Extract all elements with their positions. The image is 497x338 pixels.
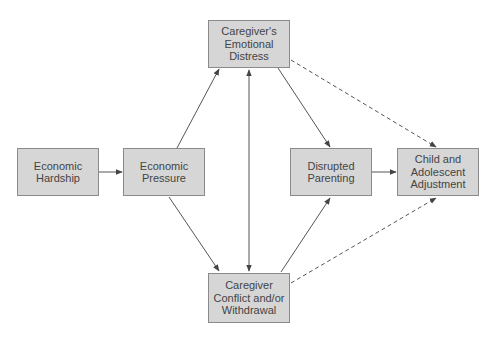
node-child-adjustment: Child and Adolescent Adjustment [397, 148, 479, 196]
node-economic-hardship: Economic Hardship [17, 148, 99, 196]
arrow-pressure-to-distress [177, 69, 219, 148]
node-emotional-distress: Caregiver's Emotional Distress [208, 20, 290, 68]
arrow-conflict-to-parenting [281, 198, 330, 272]
node-conflict-withdrawal: Caregiver Conflict and/or Withdrawal [208, 273, 290, 323]
node-disrupted-parenting: Disrupted Parenting [290, 148, 372, 196]
node-label: Disrupted Parenting [307, 160, 354, 185]
arrow-conflict-to-adjustment-dashed [291, 198, 436, 283]
node-economic-pressure: Economic Pressure [123, 148, 205, 196]
arrow-distress-to-adjustment-dashed [291, 60, 436, 147]
node-label: Economic Hardship [34, 160, 82, 185]
node-label: Economic Pressure [140, 160, 188, 185]
arrow-pressure-to-conflict [169, 197, 219, 271]
node-label: Caregiver's Emotional Distress [221, 25, 276, 63]
arrow-distress-to-parenting [278, 68, 330, 147]
node-label: Child and Adolescent Adjustment [410, 153, 465, 191]
family-stress-model-diagram: Economic Hardship Economic Pressure Care… [0, 0, 497, 338]
node-label: Caregiver Conflict and/or Withdrawal [214, 279, 285, 317]
